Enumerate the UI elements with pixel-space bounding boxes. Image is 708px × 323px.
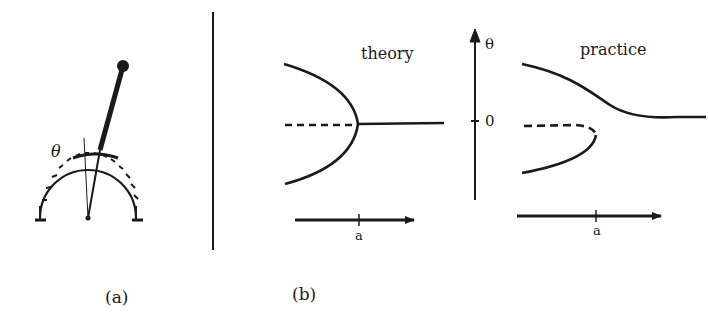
practice-lower-branch [522, 135, 596, 173]
theta-axis-label: θ [485, 35, 494, 53]
theta-angle-label: θ [51, 142, 61, 161]
panel-b-caption: (b) [292, 284, 316, 304]
practice-upper-branch [522, 64, 706, 117]
theory-lower-branch [285, 124, 358, 184]
pivot [86, 216, 91, 221]
pendulum-diagram [35, 60, 143, 221]
theory-title: theory [361, 44, 414, 63]
pendulum-bob [117, 60, 129, 72]
theory-stable-branch [358, 123, 444, 124]
theory-plot [284, 64, 444, 226]
practice-unstable-branch [524, 125, 596, 135]
pendulum-rod [100, 66, 123, 150]
theta-zero-label: 0 [485, 112, 495, 130]
practice-a-label: a [593, 223, 601, 238]
theory-upper-branch [284, 64, 358, 124]
panel-a-caption: (a) [105, 287, 128, 307]
practice-plot [517, 64, 706, 222]
theta-axis [470, 29, 480, 200]
practice-title: practice [580, 40, 646, 59]
vertical-reference [84, 138, 88, 218]
angle-arc [73, 154, 118, 158]
theory-a-label: a [355, 228, 363, 243]
